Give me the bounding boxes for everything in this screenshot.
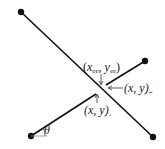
label-minus-point: (x, y)-	[84, 103, 112, 119]
endpoint-right	[142, 58, 148, 64]
label-ee-point: (xee, yee)	[83, 60, 120, 75]
endpoint-top-left	[18, 9, 24, 15]
long-segment	[21, 12, 153, 137]
endpoint-bottom-right	[150, 134, 156, 140]
angle-label: θ	[44, 123, 50, 137]
label-plus-point: (x, y)+	[124, 81, 153, 97]
diagram-canvas: θ (xee, yee) (x, y)+ (x, y)-	[0, 0, 165, 149]
